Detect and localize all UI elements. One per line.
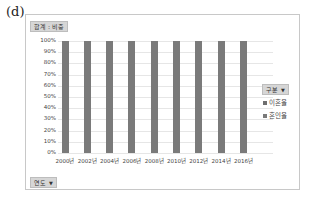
y-tick-label: 100% (26, 37, 56, 43)
y-tick-label: 20% (26, 127, 56, 133)
bar-혼인율 (240, 41, 247, 153)
y-tick-label: 60% (26, 82, 56, 88)
bar-혼인율 (151, 41, 158, 153)
bar-혼인율 (62, 41, 69, 153)
row-field-button[interactable]: 연도▼ (30, 177, 57, 188)
x-tick-label: 2002년 (75, 157, 99, 165)
y-tick-label: 50% (26, 93, 56, 99)
y-tick-label: 70% (26, 71, 56, 77)
row-field-label: 연도 (34, 179, 46, 186)
x-tick-label: 2006년 (120, 157, 144, 165)
y-tick-label: 80% (26, 59, 56, 65)
y-tick-label: 30% (26, 115, 56, 121)
legend-item-marriage: 혼인율 (263, 110, 287, 120)
gridline (58, 153, 273, 154)
x-tick-label: 2004년 (98, 157, 122, 165)
x-tick-label: 2012년 (187, 157, 211, 165)
x-tick-label: 2014년 (209, 157, 233, 165)
bar-혼인율 (128, 41, 135, 153)
dropdown-arrow-icon: ▼ (49, 180, 53, 186)
bar-혼인율 (106, 41, 113, 153)
legend-label: 혼인율 (269, 112, 287, 120)
dropdown-arrow-icon: ▼ (281, 87, 285, 93)
y-tick-label: 10% (26, 138, 56, 144)
legend-field-label: 구분 (266, 86, 278, 93)
bar-혼인율 (84, 41, 91, 153)
legend-field-button[interactable]: 구분▼ (262, 84, 289, 95)
plot-area: 0%10%20%30%40%50%60%70%80%90%100%2000년20… (26, 15, 276, 165)
legend-item-divorce: 이혼율 (263, 97, 287, 107)
x-tick-label: 2010년 (165, 157, 189, 165)
y-tick-label: 90% (26, 48, 56, 54)
bar-혼인율 (173, 41, 180, 153)
legend-swatch (263, 114, 267, 118)
x-tick-label: 2000년 (53, 157, 77, 165)
pivot-chart: 합계 : 비중 0%10%20%30%40%50%60%70%80%90%100… (25, 14, 300, 190)
x-tick-label: 2008년 (142, 157, 166, 165)
legend-label: 이혼율 (269, 99, 287, 107)
bar-혼인율 (218, 41, 225, 153)
y-tick-label: 0% (26, 149, 56, 155)
legend-swatch (263, 101, 267, 105)
y-tick-label: 40% (26, 104, 56, 110)
panel-label: (d) (6, 4, 24, 19)
x-tick-label: 2016년 (231, 157, 255, 165)
bar-혼인율 (195, 41, 202, 153)
